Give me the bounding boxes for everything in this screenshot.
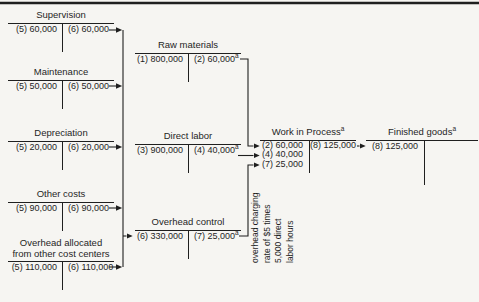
- debit-entry: (8) 125,000: [366, 141, 478, 152]
- credit-entry: (6) 110,000: [62, 262, 113, 273]
- annotation-line: 5,000 direct: [273, 170, 285, 263]
- credit-entry: (6) 90,000: [62, 203, 109, 214]
- credit-entry: (2) 60,000a: [188, 54, 239, 65]
- debit-entries: (2) 60,000 (4) 40,000 (7) 25,000: [260, 141, 306, 170]
- credit-entry: (6) 60,000: [62, 24, 109, 35]
- t-account-supervision: Supervision (5) 60,000 (6) 60,000: [8, 10, 114, 35]
- annotation-line: overhead charging: [250, 170, 262, 263]
- account-title: Other costs: [8, 189, 114, 202]
- debit-entry: (5) 50,000: [8, 81, 62, 92]
- account-title: Maintenance: [8, 67, 114, 80]
- debit-entry: (5) 20,000: [8, 142, 62, 153]
- t-account-divider: [424, 141, 425, 185]
- t-account-divider: [188, 145, 189, 173]
- t-account-raw-materials: Raw materials (1) 800,000 (2) 60,000a: [135, 40, 241, 65]
- footnote-marker: a: [235, 143, 239, 150]
- t-account-divider: [188, 231, 189, 259]
- credit-entry: (8) 125,000: [310, 141, 356, 151]
- arrow-raw-materials-to-wip: [240, 59, 254, 146]
- debit-entry: (1) 800,000: [135, 54, 188, 65]
- credit-entries: (8) 125,000: [306, 141, 356, 170]
- t-account-divider: [62, 24, 63, 52]
- debit-entry: (3) 900,000: [135, 145, 188, 156]
- debit-entry: (5) 60,000: [8, 24, 62, 35]
- t-account-maintenance: Maintenance (5) 50,000 (6) 50,000: [8, 67, 114, 92]
- credit-entry: (4) 40,000a: [188, 145, 239, 156]
- credit-entry: (6) 20,000: [62, 142, 109, 153]
- t-account-other-costs: Other costs (5) 90,000 (6) 90,000: [8, 189, 114, 214]
- t-account-flow-diagram: Supervision (5) 60,000 (6) 60,000 Mainte…: [0, 0, 479, 302]
- credit-entry: (6) 50,000: [62, 81, 109, 92]
- account-title: Raw materials: [135, 40, 241, 53]
- t-account-overhead-control: Overhead control (6) 330,000 (7) 25,000a: [135, 217, 241, 242]
- t-account-divider: [62, 262, 63, 290]
- t-account-divider: [62, 81, 63, 109]
- account-title: Overhead allocated from other cost cente…: [8, 238, 114, 261]
- debit-entry: (5) 110,000: [8, 262, 62, 273]
- overhead-rate-annotation: overhead charging rate of $5 times 5,000…: [250, 170, 296, 263]
- annotation-line: labor hours: [285, 170, 297, 263]
- debit-entry: (7) 25,000: [262, 160, 306, 170]
- account-title: Depreciation: [8, 128, 114, 141]
- footnote-marker: a: [235, 52, 239, 59]
- t-account-work-in-process: Work in Processa (2) 60,000 (4) 40,000 (…: [260, 127, 356, 169]
- annotation-line: rate of $5 times: [262, 170, 274, 263]
- credit-entry: (7) 25,000a: [188, 231, 239, 242]
- account-title: Direct labor: [135, 131, 241, 144]
- t-account-divider: [188, 54, 189, 82]
- footnote-marker: a: [341, 125, 345, 132]
- debit-entry: (6) 330,000: [135, 231, 188, 242]
- t-account-overhead-allocated: Overhead allocated from other cost cente…: [8, 238, 114, 273]
- t-account-finished-goods: Finished goodsa (8) 125,000: [366, 127, 478, 152]
- account-title: Work in Processa: [260, 127, 356, 140]
- t-account-divider: [62, 203, 63, 231]
- t-account-divider: [62, 142, 63, 170]
- t-account-direct-labor: Direct labor (3) 900,000 (4) 40,000a: [135, 131, 241, 156]
- footnote-marker: a: [235, 229, 239, 236]
- debit-entry: (5) 90,000: [8, 203, 62, 214]
- t-account-divider: [309, 141, 310, 173]
- account-title: Overhead control: [135, 217, 241, 230]
- account-title: Supervision: [8, 10, 114, 23]
- footnote-marker: a: [452, 125, 456, 132]
- account-title: Finished goodsa: [366, 127, 478, 140]
- t-account-depreciation: Depreciation (5) 20,000 (6) 20,000: [8, 128, 114, 153]
